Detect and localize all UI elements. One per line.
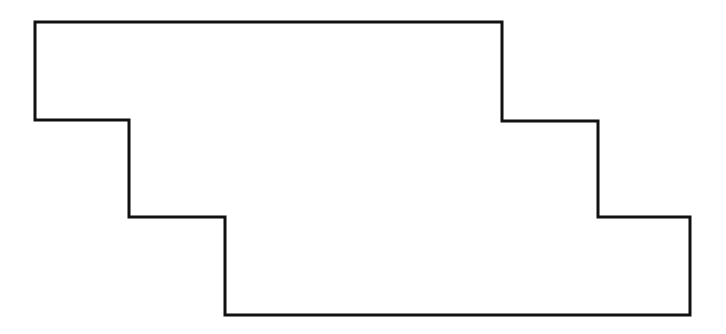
diagram-canvas [0, 0, 726, 334]
staircase-polygon [35, 22, 690, 315]
